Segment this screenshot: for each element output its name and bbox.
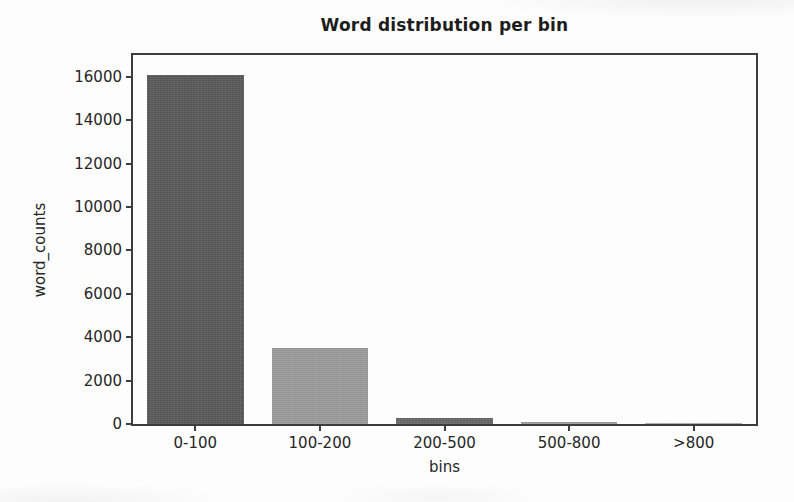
- y-tick: [126, 423, 133, 425]
- figure: Word distribution per bin word_counts 02…: [0, 0, 794, 502]
- x-tick-label: 500-800: [538, 434, 601, 452]
- y-tick-label: 12000: [74, 155, 122, 173]
- y-axis-label: word_counts: [31, 203, 49, 298]
- x-tick: [568, 424, 570, 431]
- y-tick-label: 16000: [74, 68, 122, 86]
- x-tick: [194, 424, 196, 431]
- x-tick: [444, 424, 446, 431]
- x-tick: [319, 424, 321, 431]
- y-tick-label: 2000: [84, 372, 122, 390]
- x-tick-label: 0-100: [174, 434, 218, 452]
- y-tick: [126, 336, 133, 338]
- x-tick-label: 100-200: [289, 434, 352, 452]
- y-tick: [126, 380, 133, 382]
- bar-100-200: [272, 348, 369, 424]
- y-tick: [126, 119, 133, 121]
- x-tick-label: >800: [673, 434, 714, 452]
- y-tick-label: 4000: [84, 328, 122, 346]
- chart-title: Word distribution per bin: [131, 15, 758, 35]
- x-axis-label: bins: [131, 458, 758, 476]
- bar-0-100: [147, 75, 244, 424]
- y-tick: [126, 249, 133, 251]
- y-tick: [126, 206, 133, 208]
- y-tick-label: 0: [112, 415, 122, 433]
- y-tick-label: 6000: [84, 285, 122, 303]
- x-tick: [693, 424, 695, 431]
- y-tick: [126, 163, 133, 165]
- y-tick: [126, 76, 133, 78]
- y-tick-label: 8000: [84, 241, 122, 259]
- x-tick-label: 200-500: [413, 434, 476, 452]
- plot-area: 02000400060008000100001200014000160000-1…: [131, 53, 758, 426]
- y-tick-label: 10000: [74, 198, 122, 216]
- y-tick: [126, 293, 133, 295]
- y-tick-label: 14000: [74, 111, 122, 129]
